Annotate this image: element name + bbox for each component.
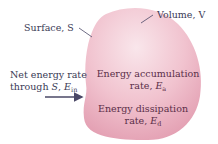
volume-label: Volume, V [156, 9, 206, 20]
net-energy-label-line2: through S, Ein [10, 81, 77, 94]
surface-leader-line [79, 28, 92, 37]
surface-label: Surface, S [24, 22, 74, 33]
dissipation-label-line1: Energy dissipation [98, 103, 188, 114]
energy-balance-diagram: Surface, S Volume, V Net energy rate thr… [0, 0, 218, 144]
net-energy-label-line1: Net energy rate [10, 69, 87, 80]
accumulation-label-line1: Energy accumulation [97, 68, 200, 79]
